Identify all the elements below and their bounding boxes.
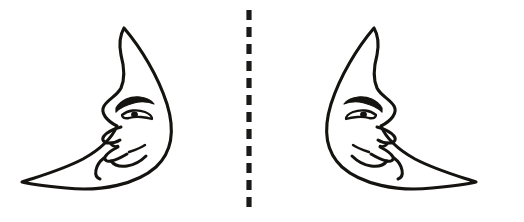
figure-canvas (0, 0, 524, 222)
left-crescent-moon (22, 28, 171, 189)
symmetry-figure: Mirror image pair of crescent moon faces… (0, 0, 524, 222)
right-crescent-moon (327, 28, 476, 189)
